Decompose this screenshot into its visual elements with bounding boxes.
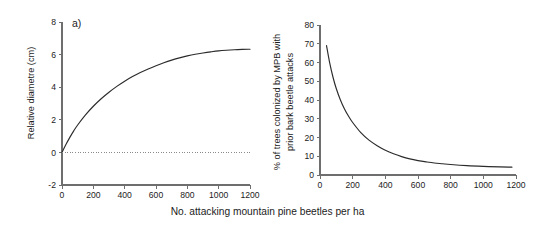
y-axis-label-b-line1: % of trees colonized by MPB with	[272, 18, 282, 186]
y-axis-tick-label: 80	[304, 20, 314, 30]
plot-area-b: 01020304050607080020040060080010001200	[268, 0, 535, 200]
y-axis-label-b-line2: prior bark beetle attacks	[285, 18, 295, 186]
chart-panel-a: -202468020040060080010001200 a) Relative…	[0, 0, 268, 200]
x-axis-tick-label: 800	[180, 190, 195, 200]
y-axis-tick-label: -2	[48, 180, 56, 190]
x-axis-tick-label: 0	[60, 190, 65, 200]
y-axis-label-a: Relative diametre (cm)	[26, 18, 36, 168]
y-axis-tick-label: 8	[51, 17, 56, 27]
y-axis-tick-label: 60	[304, 58, 314, 68]
y-axis-tick-label: 30	[304, 114, 314, 124]
x-axis-tick-label: 600	[149, 190, 164, 200]
y-axis-tick-label: 4	[51, 82, 56, 92]
x-axis-tick-label: 400	[117, 190, 132, 200]
y-axis-tick-label: 0	[51, 148, 56, 158]
figure-container: -202468020040060080010001200 a) Relative…	[0, 0, 535, 234]
y-axis-tick-label: 2	[51, 115, 56, 125]
x-axis-tick-label: 200	[86, 190, 101, 200]
x-axis-tick-label: 600	[411, 180, 426, 190]
y-axis-tick-label: 20	[304, 133, 314, 143]
y-axis-tick-label: 70	[304, 39, 314, 49]
plot-area-a: -202468020040060080010001200	[0, 0, 268, 200]
data-curve	[62, 49, 250, 152]
x-axis-tick-label: 1200	[506, 180, 525, 190]
y-axis-tick-label: 40	[304, 95, 314, 105]
x-axis-tick-label: 0	[318, 180, 323, 190]
y-axis-tick-label: 10	[304, 151, 314, 161]
y-axis-tick-label: 50	[304, 76, 314, 86]
x-axis-tick-label: 1000	[474, 180, 493, 190]
chart-panel-b: 01020304050607080020040060080010001200 b…	[268, 0, 535, 200]
panel-label-a: a)	[72, 17, 81, 29]
x-axis-tick-label: 800	[443, 180, 458, 190]
shared-x-axis-label: No. attacking mountain pine beetles per …	[0, 206, 535, 217]
x-axis-tick-label: 400	[378, 180, 393, 190]
data-curve	[327, 46, 512, 168]
x-axis-tick-label: 200	[345, 180, 360, 190]
y-axis-tick-label: 0	[309, 170, 314, 180]
x-axis-tick-label: 1200	[240, 190, 259, 200]
y-axis-tick-label: 6	[51, 50, 56, 60]
x-axis-tick-label: 1000	[209, 190, 228, 200]
